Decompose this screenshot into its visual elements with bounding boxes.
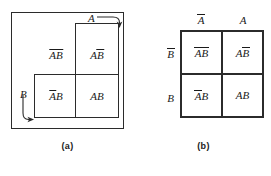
overbar-a: A: [49, 90, 56, 102]
region-label-not-a-not-b: AB: [49, 49, 62, 61]
letter-a: A: [236, 89, 243, 101]
letter-b: B: [202, 90, 209, 102]
kmap-cell-not-a-b: AB: [181, 74, 222, 117]
overbar-a: A: [198, 14, 205, 26]
letter-a: A: [90, 90, 97, 102]
region-label-a-not-b: AB: [90, 49, 103, 61]
region-label-a-b: AB: [90, 91, 103, 102]
callout-letter-b: B: [20, 89, 27, 100]
kmap-cell-a-b: AB: [222, 74, 263, 117]
letter-a: A: [90, 49, 97, 61]
set-b-rectangle: [34, 74, 119, 118]
column-header-a: A: [222, 14, 264, 26]
region-label-not-a-b: AB: [49, 90, 62, 102]
kmap-cell-a-not-b: AB: [222, 31, 263, 74]
caption-panel-b: (b): [136, 141, 271, 151]
overbar-b: B: [202, 47, 209, 59]
overbar-b: B: [167, 48, 174, 60]
letter-a: A: [240, 14, 247, 26]
panel-karnaugh-map: A A B B AB AB AB AB (b): [136, 0, 271, 176]
kmap-grid: AB AB AB AB: [180, 30, 264, 118]
overbar-b: B: [56, 49, 63, 61]
letter-b: B: [243, 89, 250, 101]
kmap-cell-not-a-not-b: AB: [181, 31, 222, 74]
letter-a: A: [236, 47, 243, 59]
callout-letter-a: A: [88, 13, 95, 24]
figure-root: AB AB AB AB A B (a): [0, 0, 271, 176]
letter-b: B: [56, 90, 63, 102]
row-header-not-b: B: [158, 48, 174, 60]
letter-b: B: [167, 92, 174, 104]
overbar-a: A: [195, 47, 202, 59]
row-header-b: B: [158, 92, 174, 104]
panel-venn-diagram: AB AB AB AB A B (a): [0, 0, 135, 176]
overbar-b: B: [243, 47, 250, 59]
letter-b: B: [97, 90, 104, 102]
overbar-a: A: [195, 90, 202, 102]
caption-panel-a: (a): [0, 141, 135, 151]
overbar-b: B: [97, 49, 104, 61]
column-header-not-a: A: [180, 14, 222, 26]
overbar-a: A: [49, 49, 56, 61]
